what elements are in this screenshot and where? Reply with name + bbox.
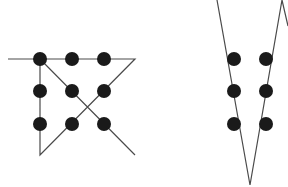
dot xyxy=(227,84,241,98)
right-puzzle xyxy=(217,0,288,185)
connecting-line xyxy=(8,59,135,155)
dot xyxy=(97,117,111,131)
dot xyxy=(259,84,273,98)
nine-dots-diagram xyxy=(0,0,288,187)
dot xyxy=(65,117,79,131)
dot xyxy=(227,52,241,66)
dot xyxy=(97,52,111,66)
dot xyxy=(33,52,47,66)
dot xyxy=(259,117,273,131)
dot xyxy=(65,84,79,98)
diagram-canvas xyxy=(0,0,288,187)
dot xyxy=(33,84,47,98)
dot xyxy=(227,117,241,131)
dot xyxy=(33,117,47,131)
left-puzzle xyxy=(8,52,135,155)
dot xyxy=(259,52,273,66)
dot xyxy=(97,84,111,98)
dot xyxy=(65,52,79,66)
